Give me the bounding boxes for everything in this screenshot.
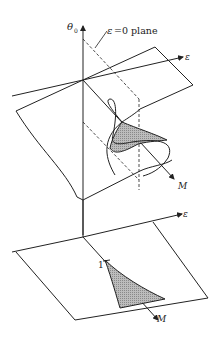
plane-label-eps: ε xyxy=(107,25,112,36)
theta-axis-label: θ xyxy=(67,21,73,32)
theta-axis-subscript: 0 xyxy=(74,27,78,34)
bifurcation-diagram: θ 0 ε =0 plane ε M ε M 1 xyxy=(0,0,220,341)
lower-plane-group xyxy=(12,200,208,320)
epsilon-label-upper: ε xyxy=(185,52,190,62)
epsilon-axis-lower-back xyxy=(12,237,83,252)
surface-outline xyxy=(16,47,193,200)
one-label: 1 xyxy=(98,260,104,270)
epsilon-axis-lower xyxy=(83,214,182,237)
surface-upper-edge-right xyxy=(122,109,140,122)
m-label-lower: M xyxy=(156,314,167,324)
plane-label-leader xyxy=(95,31,107,48)
epsilon-axis-upper-back xyxy=(12,80,83,96)
plane-label: =0 plane xyxy=(114,25,158,36)
surface-fold-edge xyxy=(140,160,172,171)
epsilon-label-lower: ε xyxy=(183,209,188,219)
upper-surface-group xyxy=(12,26,193,235)
lower-cusp-region-shaded xyxy=(105,260,165,308)
m-label-upper: M xyxy=(177,181,188,191)
cusp-region-shaded xyxy=(110,122,167,152)
